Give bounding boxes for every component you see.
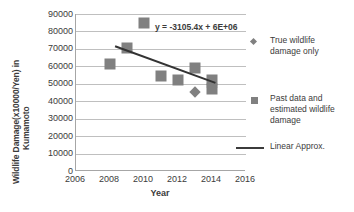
legend-item-label: True wildlife damage only: [270, 35, 354, 57]
y-axis-title-line-1: Wildlife Damage(x10000/Yen) in: [11, 60, 21, 184]
legend-label-line-3: damage: [270, 115, 354, 126]
x-axis-tick-label: 2012: [167, 174, 187, 184]
plot-area: [75, 14, 245, 171]
y-axis-tick-label: 30000: [33, 114, 73, 123]
chart-legend: True wildlife damage only Past data and …: [246, 36, 354, 176]
x-axis-tick-label: 2008: [99, 174, 119, 184]
y-axis-tick-label: 40000: [33, 97, 73, 106]
y-axis-tick-label: 20000: [33, 132, 73, 141]
wildlife-damage-chart: Wildlife Damage(x10000/Yen) in Kumamoto …: [0, 0, 354, 212]
legend-label-line-2: estimated wildlife: [270, 104, 354, 115]
x-axis-tick-labels: 200620082010201220142016: [0, 174, 354, 188]
linear-approx-trendline: [76, 14, 246, 171]
y-axis-tick-label: 80000: [33, 27, 73, 36]
y-axis-tick-label: 60000: [33, 62, 73, 71]
legend-label-line-1: Linear Approx.: [270, 141, 354, 152]
x-axis-title: Year: [75, 188, 245, 198]
line-marker-icon: [246, 142, 268, 154]
x-axis-tick-label: 2006: [65, 174, 85, 184]
legend-label-line-2: damage only: [270, 46, 354, 57]
legend-label-line-1: Past data and: [270, 93, 354, 104]
y-axis-tick-label: 10000: [33, 149, 73, 158]
legend-item-label: Linear Approx.: [270, 141, 354, 152]
y-axis-tick-labels: 0100002000030000400005000060000700008000…: [30, 0, 73, 190]
x-axis-tick-label: 2014: [201, 174, 221, 184]
y-axis-title: Wildlife Damage(x10000/Yen) in Kumamoto: [0, 0, 34, 190]
trendline-equation: y = -3105.4x + 6E+06: [155, 22, 237, 32]
legend-label-line-1: True wildlife: [270, 35, 354, 46]
y-axis-tick-label: 90000: [33, 10, 73, 19]
y-axis-tick-label: 70000: [33, 44, 73, 53]
diamond-marker-icon: [246, 36, 268, 48]
x-axis-tick-label: 2010: [133, 174, 153, 184]
legend-item-label: Past data and estimated wildlife damage: [270, 93, 354, 126]
square-marker-icon: [246, 94, 268, 106]
y-axis-tick-label: 50000: [33, 79, 73, 88]
